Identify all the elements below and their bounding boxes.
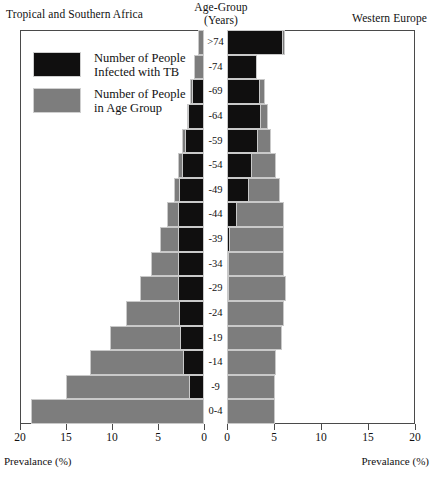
age-group-label: -49 bbox=[204, 178, 227, 203]
legend-swatch-black bbox=[33, 52, 81, 77]
tb-infected-bar bbox=[227, 129, 258, 154]
tb-infected-bar bbox=[180, 326, 204, 351]
bar-row bbox=[20, 129, 204, 154]
age-group-label: -24 bbox=[204, 301, 227, 326]
x-tick-mark bbox=[274, 424, 275, 430]
tb-infected-bar bbox=[178, 252, 204, 277]
age-group-bar bbox=[227, 276, 286, 301]
bar-row bbox=[227, 30, 415, 55]
x-tick-label: 15 bbox=[362, 431, 374, 443]
x-tick-mark bbox=[66, 424, 67, 430]
x-tick-label: 10 bbox=[315, 431, 327, 443]
age-group-bar bbox=[66, 375, 204, 400]
legend-label-line1: Number of People bbox=[94, 88, 186, 102]
population-pyramid-chart: Tropical and Southern Africa Western Eur… bbox=[0, 0, 433, 477]
panel-title-right: Western Europe bbox=[352, 12, 427, 24]
age-group-label: -59 bbox=[204, 129, 227, 154]
x-tick-label: 0 bbox=[224, 431, 230, 443]
tb-infected-bar bbox=[227, 202, 237, 227]
age-group-label: -34 bbox=[204, 252, 227, 277]
legend-label-line1: Number of People bbox=[94, 52, 186, 66]
bar-row bbox=[227, 55, 415, 80]
age-group-label: -14 bbox=[204, 350, 227, 375]
tb-infected-bar bbox=[182, 153, 204, 178]
age-group-bar bbox=[227, 227, 284, 252]
x-tick-mark bbox=[368, 424, 369, 430]
x-tick-label: 0 bbox=[201, 431, 207, 443]
x-tick-label: 20 bbox=[409, 431, 421, 443]
tb-infected-bar bbox=[227, 252, 229, 277]
chart-legend: Number of PeopleInfected with TBNumber o… bbox=[33, 52, 186, 124]
legend-label-line2: in Age Group bbox=[94, 102, 186, 116]
age-group-bar bbox=[227, 326, 282, 351]
bar-row bbox=[227, 104, 415, 129]
x-tick-label: 15 bbox=[60, 431, 72, 443]
age-group-label: -54 bbox=[204, 153, 227, 178]
tb-infected-bar bbox=[178, 227, 204, 252]
x-tick-mark bbox=[112, 424, 113, 430]
legend-item: Number of Peoplein Age Group bbox=[33, 88, 186, 115]
bar-row bbox=[227, 350, 415, 375]
tb-infected-bar bbox=[179, 178, 204, 203]
legend-swatch-gray bbox=[33, 88, 81, 113]
age-group-bar bbox=[227, 399, 275, 424]
bar-row bbox=[227, 129, 415, 154]
x-tick-label: 5 bbox=[271, 431, 277, 443]
bar-row bbox=[227, 276, 415, 301]
age-group-bar bbox=[227, 252, 284, 277]
legend-item: Number of PeopleInfected with TB bbox=[33, 52, 186, 79]
bars-pane-right bbox=[227, 30, 415, 424]
age-group-bar bbox=[227, 375, 275, 400]
bar-row bbox=[227, 301, 415, 326]
tb-infected-bar bbox=[227, 178, 249, 203]
age-group-title-line2: (Years) bbox=[186, 14, 256, 27]
bar-row bbox=[20, 399, 204, 424]
age-group-label: >74 bbox=[204, 30, 227, 55]
bar-row bbox=[20, 301, 204, 326]
age-group-label: 0-4 bbox=[204, 399, 227, 424]
age-group-bar bbox=[227, 350, 276, 375]
bar-row bbox=[227, 227, 415, 252]
tb-infected-bar bbox=[189, 375, 204, 400]
age-group-label-column: >74-74-69-64-59-54-49-44-39-34-29-24-19-… bbox=[204, 30, 227, 424]
age-group-title-line1: Age-Group bbox=[194, 1, 247, 13]
tb-infected-bar bbox=[227, 104, 261, 129]
bar-row bbox=[227, 326, 415, 351]
tb-infected-bar bbox=[227, 276, 229, 301]
bar-row bbox=[20, 350, 204, 375]
bar-row bbox=[20, 375, 204, 400]
legend-label: Number of Peoplein Age Group bbox=[94, 88, 186, 115]
bar-row bbox=[227, 202, 415, 227]
bar-row bbox=[227, 79, 415, 104]
x-tick-mark bbox=[415, 424, 416, 430]
tb-infected-bar bbox=[227, 153, 252, 178]
tb-infected-bar bbox=[178, 202, 204, 227]
bar-row bbox=[20, 252, 204, 277]
bar-row bbox=[20, 153, 204, 178]
age-group-label: -44 bbox=[204, 202, 227, 227]
tb-infected-bar bbox=[227, 79, 260, 104]
bar-row bbox=[227, 153, 415, 178]
age-group-label: -64 bbox=[204, 104, 227, 129]
age-group-label: -19 bbox=[204, 326, 227, 351]
x-tick-mark bbox=[204, 424, 205, 430]
tb-infected-bar bbox=[185, 129, 204, 154]
bar-row bbox=[20, 178, 204, 203]
bar-row bbox=[227, 399, 415, 424]
tb-infected-bar bbox=[179, 301, 204, 326]
panel-title-left: Tropical and Southern Africa bbox=[6, 8, 143, 20]
bar-row bbox=[20, 326, 204, 351]
x-tick-label: 20 bbox=[14, 431, 26, 443]
age-group-label: -69 bbox=[204, 79, 227, 104]
x-tick-label: 10 bbox=[106, 431, 118, 443]
tb-infected-bar bbox=[183, 350, 204, 375]
age-group-bar bbox=[194, 55, 204, 80]
tb-infected-bar bbox=[227, 227, 230, 252]
legend-label: Number of PeopleInfected with TB bbox=[94, 52, 186, 79]
bar-row bbox=[227, 178, 415, 203]
x-tick-label: 5 bbox=[155, 431, 161, 443]
bar-row bbox=[227, 375, 415, 400]
legend-label-line2: Infected with TB bbox=[94, 66, 186, 80]
tb-infected-bar bbox=[227, 30, 283, 55]
tb-infected-bar bbox=[188, 104, 204, 129]
